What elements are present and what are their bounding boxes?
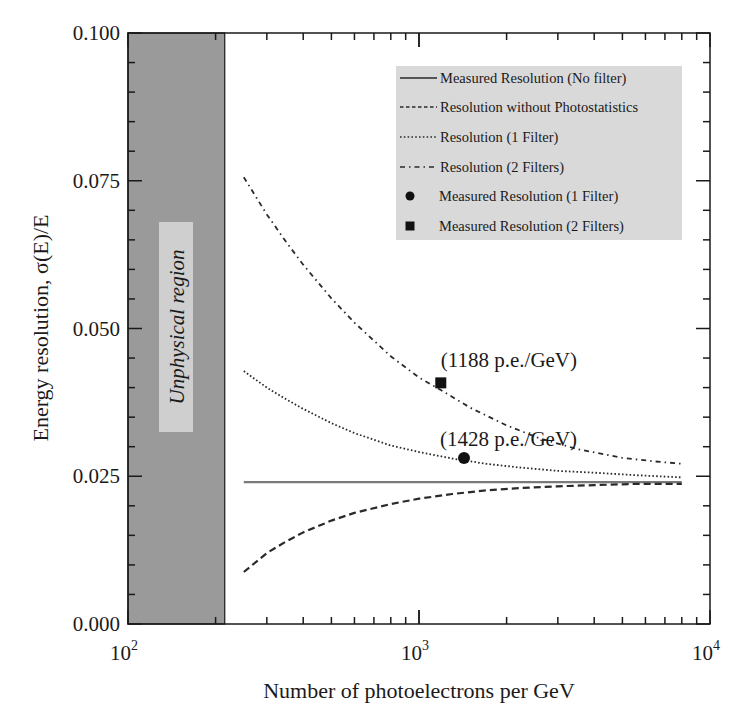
x-tick-label: 104: [692, 638, 720, 665]
legend-label: Measured Resolution (2 Filters): [439, 218, 624, 235]
y-tick-label: 0.075: [73, 169, 120, 193]
legend-box: [396, 66, 682, 240]
point-annotation: (1188 p.e./GeV): [441, 348, 577, 372]
y-axis-title: Energy resolution, σ(E)/E: [28, 214, 53, 441]
x-axis-title: Number of photoelectrons per GeV: [263, 678, 575, 703]
x-tick-label: 102: [110, 638, 138, 665]
legend: Measured Resolution (No filter)Resolutio…: [396, 66, 682, 240]
legend-label: Resolution (2 Filters): [440, 159, 564, 176]
point-annotation: (1428 p.e./GeV): [440, 427, 577, 451]
legend-label: Measured Resolution (1 Filter): [439, 188, 618, 205]
series-line: [244, 484, 682, 572]
y-tick-label: 0.050: [73, 317, 120, 341]
x-tick-label: 103: [401, 638, 429, 665]
circle-marker: [458, 452, 470, 464]
legend-circle-icon: [406, 192, 415, 201]
legend-label: Resolution (1 Filter): [440, 129, 559, 146]
measured-points: (1428 p.e./GeV)(1188 p.e./GeV): [435, 348, 577, 464]
x-axis-tick-labels: 102103104: [110, 638, 720, 665]
y-tick-label: 0.000: [73, 612, 120, 636]
square-marker: [435, 377, 446, 388]
legend-label: Resolution without Photostatistics: [440, 99, 639, 115]
legend-square-icon: [406, 222, 415, 231]
y-axis-tick-labels: 0.0000.0250.0500.0750.100: [73, 21, 120, 636]
y-tick-label: 0.100: [73, 21, 120, 45]
legend-label: Measured Resolution (No filter): [440, 70, 627, 87]
chart: Unphysical region 0.0000.0250.0500.0750.…: [0, 0, 749, 723]
y-tick-label: 0.025: [73, 464, 120, 488]
unphysical-region-label: Unphysical region: [165, 250, 189, 405]
